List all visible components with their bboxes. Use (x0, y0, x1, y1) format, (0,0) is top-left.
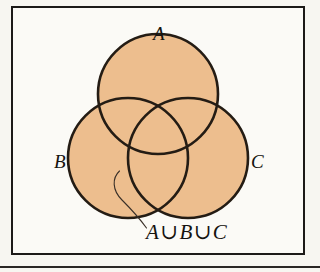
set-label-b: B (54, 152, 66, 171)
set-label-c: C (251, 152, 264, 171)
figure-page: A B C A∪B∪C (0, 0, 320, 272)
union-annotation-label: A∪B∪C (146, 222, 228, 243)
set-label-a: A (153, 24, 165, 43)
union-fill-region (50, 20, 280, 240)
page-bottom-rule (0, 266, 320, 268)
